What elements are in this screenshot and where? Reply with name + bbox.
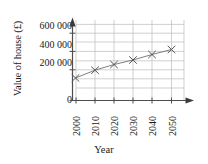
x-tick-label-2040: 2040: [148, 116, 158, 136]
x-tick-label-2010: 2010: [91, 116, 101, 136]
x-axis-title: Year: [0, 144, 208, 155]
x-tick-label-2020: 2020: [110, 116, 120, 136]
x-axis-tick-labels: 2000 2010 2020 2030 2040 2050: [0, 0, 208, 164]
x-tick-label-2030: 2030: [129, 116, 139, 136]
house-value-line-chart: Value of house (£) 600 000 400 000 200 0…: [0, 0, 208, 164]
x-tick-label-2050: 2050: [168, 116, 178, 136]
x-tick-label-2000: 2000: [72, 116, 82, 136]
